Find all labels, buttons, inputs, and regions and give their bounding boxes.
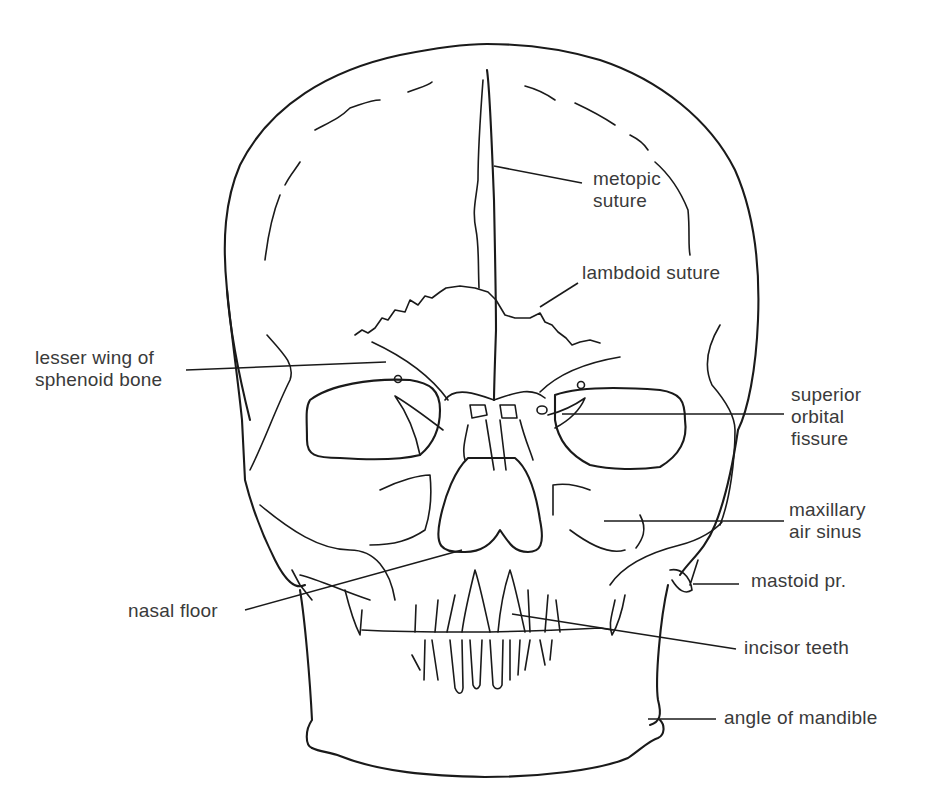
cranial-vault-outline <box>225 44 759 430</box>
metopic-suture-line-2 <box>474 80 483 288</box>
right-superior-orbital-fissure <box>548 398 585 428</box>
label-incisor-teeth: incisor teeth <box>744 637 849 659</box>
label-nasal-floor: nasal floor <box>128 600 218 622</box>
lambdoid-suture-line <box>355 286 600 345</box>
alveolar-line <box>362 628 612 632</box>
leader-lambdoid-suture <box>540 283 578 307</box>
nasal-septum <box>486 420 506 470</box>
leader-metopic-suture <box>494 166 582 183</box>
label-angle-of-mandible: angle of mandible <box>724 707 877 729</box>
ethmoid-cells <box>464 405 533 460</box>
lower-teeth <box>412 640 552 693</box>
upper-incisors <box>462 570 525 632</box>
left-maxilla-curve <box>260 505 395 600</box>
right-lesser-wing <box>540 357 620 392</box>
mandible-outline <box>312 720 664 777</box>
right-foramen <box>537 406 547 414</box>
upper-teeth-roots <box>415 590 560 632</box>
left-orbit <box>307 380 440 460</box>
left-temporal-line <box>250 335 291 470</box>
label-superior-orbital-fissure: superior orbital fissure <box>791 384 861 450</box>
left-superior-orbital-fissure <box>395 396 443 455</box>
leader-lesser-wing-of-sphenoid-bone <box>186 362 386 370</box>
left-lesser-wing <box>372 342 448 400</box>
right-ramus <box>650 585 668 725</box>
metopic-suture-line <box>487 70 496 400</box>
right-orbit <box>555 388 686 469</box>
right-zygomatic <box>553 484 590 515</box>
nasal-aperture <box>438 458 542 552</box>
label-metopic-suture: metopic suture <box>593 168 661 212</box>
leader-nasal-floor <box>245 550 462 610</box>
right-temporal-line <box>707 325 735 525</box>
right-supraorbital-foramen <box>578 382 585 389</box>
left-zygomatic <box>370 475 431 545</box>
right-mastoid <box>670 560 698 592</box>
left-coronal-suture <box>265 82 432 260</box>
label-mastoid-pr: mastoid pr. <box>751 570 846 592</box>
leader-lines <box>186 166 784 719</box>
right-maxilla-outer <box>610 522 722 585</box>
left-ramus <box>300 590 312 748</box>
label-maxillary-air-sinus: maxillary air sinus <box>789 499 866 543</box>
right-lateral-contour <box>680 430 738 575</box>
label-lambdoid-suture: lambdoid suture <box>582 262 720 284</box>
label-lesser-wing-of-sphenoid-bone: lesser wing of sphenoid bone <box>35 347 162 391</box>
left-lateral-contour <box>227 290 305 586</box>
